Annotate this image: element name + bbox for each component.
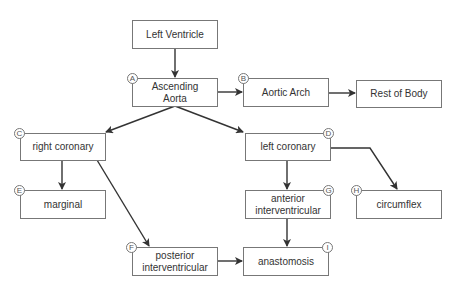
node-label: Left Ventricle (146, 29, 204, 41)
node-label: right coronary (32, 141, 93, 153)
badge-h: H (351, 185, 362, 196)
node-left-ventricle: Left Ventricle (132, 20, 218, 49)
node-ascending-aorta: AscendingAorta (132, 78, 218, 107)
node-label: circumflex (376, 199, 421, 211)
node-rest-of-body: Rest of Body (356, 80, 442, 108)
badge-e: E (14, 185, 25, 196)
badge-a: A (127, 73, 138, 84)
node-anastomosis: anastomosis (243, 247, 329, 276)
edge-asc-lca (175, 106, 243, 132)
node-right-coronary: right coronary (20, 133, 106, 161)
node-label: anastomosis (258, 256, 314, 268)
badge-c: C (14, 128, 25, 139)
node-label: AscendingAorta (152, 81, 199, 105)
node-posterior-interventricular: posteriorinterventricular (132, 247, 218, 276)
edge-asc-rca (106, 106, 175, 132)
node-label: Aortic Arch (262, 87, 310, 99)
node-circumflex: circumflex (356, 190, 442, 219)
node-label: marginal (44, 199, 82, 211)
node-marginal: marginal (20, 190, 106, 219)
edge-lca-circ (330, 148, 397, 189)
badge-b: B (238, 73, 249, 84)
node-label: posteriorinterventricular (142, 250, 208, 274)
badge-d: D (323, 128, 334, 139)
node-label: Rest of Body (370, 88, 427, 100)
badge-f: F (126, 242, 137, 253)
badge-g: G (323, 185, 334, 196)
badge-i: I (322, 242, 333, 253)
node-anterior-interventricular: anteriorinterventricular (245, 190, 331, 219)
node-aortic-arch: Aortic Arch (243, 78, 329, 107)
node-left-coronary: left coronary (245, 133, 331, 161)
node-label: anteriorinterventricular (255, 193, 321, 217)
node-label: left coronary (260, 141, 315, 153)
